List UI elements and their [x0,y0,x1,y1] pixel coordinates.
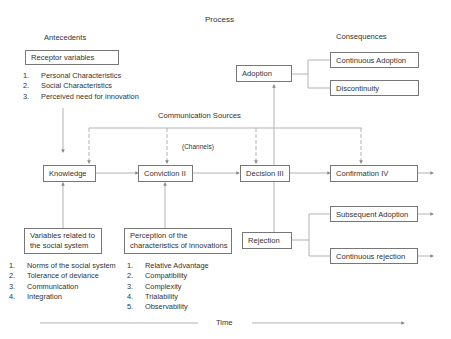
innovation-list: 1.Relative Advantage 2.Compatibility 3.C… [127,261,209,312]
social-system-box: Variables related to the social system [24,228,102,254]
list-item: 5.Observability [127,302,209,312]
list-item: 3.Communication [9,282,116,292]
social-system-line2: the social system [30,241,88,251]
channels-label: (Channels) [182,143,214,150]
adoption-box: Adoption [236,65,292,82]
time-label: Time [216,318,233,327]
conviction-box: Conviction II [138,165,193,182]
list-item: 1.Norms of the social system [9,261,116,271]
receptor-variables-box: Receptor variables [25,50,119,65]
rejection-box: Rejection [242,232,292,249]
consequences-heading: Consequences [336,32,387,41]
continuous-adoption-box: Continuous Adoption [330,52,419,68]
receptor-list: 1.Personal Characteristics 2.Social Char… [23,71,139,102]
list-item: 4.Integration [9,292,116,302]
list-item: 4.Trialability [127,292,209,302]
communication-sources-label: Communication Sources [158,111,241,120]
list-item: 3.Perceived need for innovation [23,92,139,102]
list-item: 2.Tolerance of deviance [9,271,116,281]
list-item: 1.Relative Advantage [127,261,209,271]
continuous-rejection-box: Continuous rejection [330,248,418,264]
knowledge-box: Knowledge [43,165,96,182]
list-item: 3.Complexity [127,282,209,292]
antecedents-heading: Antecedents [44,33,86,42]
list-item: 1.Personal Characteristics [23,71,139,81]
list-item: 2.Compatibility [127,271,209,281]
innovation-perception-box: Perception of the characteristics of inn… [124,228,232,254]
title-process: Process [205,15,234,24]
discontinuity-box: Discontinuity [330,80,419,96]
decision-box: Decision III [240,165,290,182]
social-system-line1: Variables related to [30,231,95,241]
subsequent-adoption-box: Subsequent Adoption [330,206,418,222]
innovation-line1: Perception of the [130,231,187,241]
innovation-line2: characteristics of innovations [130,241,228,251]
list-item: 2.Social Characteristics [23,81,139,91]
social-system-list: 1.Norms of the social system 2.Tolerance… [9,261,116,302]
confirmation-box: Confirmation IV [330,165,418,182]
